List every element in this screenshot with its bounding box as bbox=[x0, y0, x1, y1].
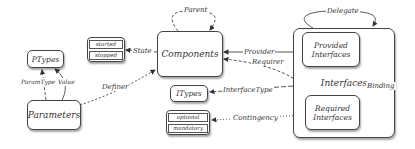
parameters-label: Parameters bbox=[28, 110, 80, 121]
component-model-diagram: Components started stopped PTypes Parame… bbox=[0, 0, 415, 149]
edge-label-paramtype: ParamType bbox=[20, 78, 56, 86]
state-node: started stopped bbox=[87, 37, 125, 62]
ptypes-node: PTypes bbox=[27, 50, 64, 68]
components-label: Components bbox=[161, 49, 218, 60]
ptypes-label: PTypes bbox=[32, 55, 59, 64]
components-node: Components bbox=[157, 31, 223, 77]
itypes-node: ITypes bbox=[170, 85, 208, 102]
contingency-mandatory: mandatory bbox=[168, 124, 208, 133]
parameters-node: Parameters bbox=[27, 100, 81, 130]
required-interfaces-node: Required Interfaces bbox=[305, 95, 360, 130]
contingency-optional: optional bbox=[168, 113, 208, 122]
edge-label-definer: Definer bbox=[101, 83, 129, 91]
edge-label-delegate: Delegate bbox=[326, 7, 360, 15]
contingency-node: optional mandatory bbox=[166, 110, 210, 135]
state-started: started bbox=[89, 40, 123, 49]
edge-label-value: Value bbox=[57, 78, 76, 86]
edge-label-interfacetype: InterfaceType bbox=[222, 86, 274, 94]
interfaces-label: Interfaces bbox=[321, 78, 367, 89]
itypes-label: ITypes bbox=[176, 89, 201, 98]
edge-label-provider: Provider bbox=[243, 48, 275, 56]
edge-label-contingency: Contingency bbox=[232, 114, 279, 122]
state-stopped: stopped bbox=[89, 51, 123, 60]
edge-label-requirer: Requirer bbox=[251, 58, 284, 66]
provided-interfaces-node: Provided Interfaces bbox=[302, 32, 360, 67]
edge-label-state: State bbox=[132, 47, 153, 55]
provided-interfaces-label: Provided Interfaces bbox=[309, 41, 353, 59]
required-interfaces-label: Required Interfaces bbox=[312, 104, 353, 122]
edge-label-binding: Binding bbox=[366, 82, 396, 90]
edge-label-parent: Parent bbox=[183, 6, 208, 14]
